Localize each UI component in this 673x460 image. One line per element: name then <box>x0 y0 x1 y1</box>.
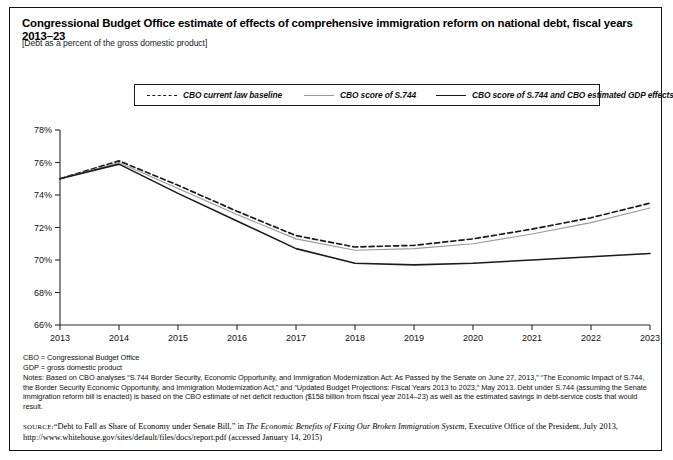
legend-label: CBO current law baseline <box>183 90 282 100</box>
y-tick-label: 72% <box>34 223 52 233</box>
y-tick-label: 76% <box>34 158 52 168</box>
legend-swatch-dark-line-icon <box>436 95 466 96</box>
y-tick-label: 70% <box>34 255 52 265</box>
figure-subtitle: [Debt as a percent of the gross domestic… <box>22 38 207 48</box>
x-tick-label: 2021 <box>522 333 542 343</box>
y-tick-label: 78% <box>34 125 52 135</box>
x-tick-label: 2017 <box>286 333 306 343</box>
source-label: source: <box>23 423 54 430</box>
chart-legend: CBO current law baseline CBO score of S.… <box>134 84 600 106</box>
abbr-gdp: GDP = gross domestic product <box>23 363 651 373</box>
y-tick-label: 66% <box>34 320 52 330</box>
x-tick-label: 2013 <box>50 333 70 343</box>
y-tick-label: 68% <box>34 288 52 298</box>
legend-swatch-dashed-icon <box>147 95 177 96</box>
figure-panel: Congressional Budget Office estimate of … <box>9 7 662 451</box>
abbr-cbo: CBO = Congressional Budget Office <box>23 353 651 363</box>
x-tick-label: 2018 <box>345 333 365 343</box>
source-text-1: “Debt to Fall as Share of Economy under … <box>54 422 246 431</box>
x-tick-label: 2023 <box>640 333 660 343</box>
legend-item-cbo-current-law-baseline: CBO current law baseline <box>147 85 282 105</box>
series-line-solid-gray <box>60 163 650 251</box>
legend-label: CBO score of S.744 <box>340 90 416 100</box>
x-tick-label: 2020 <box>463 333 483 343</box>
x-tick-label: 2022 <box>581 333 601 343</box>
x-tick-label: 2019 <box>404 333 424 343</box>
line-chart: 66%68%70%72%74%76%78%2013201420152016201… <box>10 112 663 347</box>
series-line-dashed <box>60 161 650 247</box>
x-tick-label: 2016 <box>227 333 247 343</box>
chart-plot-area: 66%68%70%72%74%76%78%2013201420152016201… <box>10 112 663 347</box>
y-tick-label: 74% <box>34 190 52 200</box>
x-tick-label: 2015 <box>168 333 188 343</box>
legend-item-cbo-score-s744-gdp: CBO score of S.744 and CBO estimated GDP… <box>436 85 673 105</box>
legend-swatch-gray-line-icon <box>304 95 334 96</box>
legend-label: CBO score of S.744 and CBO estimated GDP… <box>472 90 673 100</box>
notes-block: CBO = Congressional Budget Office GDP = … <box>23 353 651 412</box>
legend-item-cbo-score-s744: CBO score of S.744 <box>304 85 416 105</box>
x-tick-label: 2014 <box>109 333 129 343</box>
notes-text: Notes: Based on CBO analyses “S.744 Bord… <box>23 373 651 411</box>
source-italic-title: The Economic Benefits of Fixing Our Brok… <box>246 422 465 431</box>
source-block: source:“Debt to Fall as Share of Economy… <box>23 422 651 443</box>
